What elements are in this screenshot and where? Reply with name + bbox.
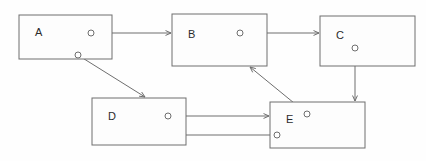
port-handle-icon[interactable] [304, 111, 310, 117]
node-d[interactable]: D [92, 98, 186, 145]
node-box[interactable] [92, 98, 186, 145]
node-box[interactable] [270, 102, 365, 148]
nodes-layer: ABCDE [19, 14, 415, 148]
node-box[interactable] [19, 15, 112, 59]
diagram-svg: ABCDE [0, 0, 426, 161]
node-label: A [35, 26, 43, 38]
arrowhead-icon [139, 92, 145, 97]
edge-a-to-d[interactable] [81, 57, 145, 97]
node-box[interactable] [320, 16, 415, 66]
port-handle-icon[interactable] [165, 113, 171, 119]
node-e[interactable]: E [270, 102, 365, 148]
node-a[interactable]: A [19, 15, 112, 59]
node-label: C [336, 29, 344, 41]
node-label: B [188, 28, 195, 40]
port-handle-icon[interactable] [237, 30, 243, 36]
port-handle-icon[interactable] [75, 52, 81, 58]
node-c[interactable]: C [320, 16, 415, 66]
node-label: E [286, 113, 293, 125]
node-b[interactable]: B [172, 14, 267, 66]
diagram-canvas: ABCDE [0, 0, 426, 161]
port-handle-icon[interactable] [274, 132, 280, 138]
node-label: D [108, 110, 116, 122]
port-handle-icon[interactable] [352, 45, 358, 51]
port-handle-icon[interactable] [88, 30, 94, 36]
node-box[interactable] [172, 14, 267, 66]
